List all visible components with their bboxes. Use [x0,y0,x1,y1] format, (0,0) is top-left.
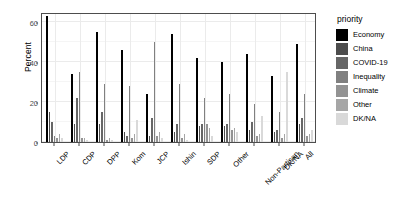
x-tick-label: LDP [54,149,71,166]
x-tick-label: Other [231,149,251,169]
legend-title: priority [337,14,415,24]
x-tick-mark [78,143,79,146]
bar [79,72,81,142]
x-tick-label: CDP [80,149,98,167]
x-tick-mark [103,143,104,146]
bar-group [171,14,188,142]
legend-swatch [336,99,348,111]
x-tick-mark [153,143,154,146]
legend-label: China [353,44,373,53]
legend-swatch [336,29,348,41]
bar-group [71,14,88,142]
legend-label: Inequality [353,72,385,81]
x-tick-label: SDP [205,149,222,166]
x-axis: LDPCDPDPPKomJCPIshinSDPOtherNon-Partisan… [41,143,316,203]
x-tick-label: JCP [154,149,170,165]
legend-swatch [336,113,348,125]
y-tick-mark [36,23,39,24]
x-tick-label: Kom [130,149,147,166]
bar [154,42,156,142]
x-tick-label: DPP [105,149,122,166]
x-tick-mark [53,143,54,146]
x-tick-mark [228,143,229,146]
legend-item[interactable]: Economy [336,28,415,41]
bar-group [296,14,313,142]
legend: priority EconomyChinaCOVID-19InequalityC… [336,14,415,126]
legend-item[interactable]: DK/NA [336,112,415,125]
bar [246,54,248,142]
bar-group [121,14,138,142]
legend-label: COVID-19 [353,58,388,67]
bar [261,116,263,142]
bar [61,138,63,142]
bar [136,120,138,142]
legend-swatch [336,43,348,55]
x-tick-mark [128,143,129,146]
legend-swatch [336,57,348,69]
bar [146,94,148,142]
bar-group [146,14,163,142]
legend-label: DK/NA [353,114,376,123]
y-tick-mark [36,63,39,64]
bar-group [196,14,213,142]
bar [236,132,238,142]
bar [161,138,163,142]
legend-item[interactable]: Climate [336,84,415,97]
legend-item[interactable]: Other [336,98,415,111]
bar [286,72,288,142]
x-tick-mark [253,143,254,146]
bar [111,140,113,142]
x-tick-mark [278,143,279,146]
bar [104,84,106,142]
bar-group [96,14,113,142]
legend-item[interactable]: COVID-19 [336,56,415,69]
bar [211,136,213,142]
x-tick-label: Ishin [180,149,198,167]
y-tick-mark [36,103,39,104]
bar [304,94,306,142]
bar [121,50,123,142]
x-tick-mark [203,143,204,146]
bar [311,130,313,142]
x-tick-mark [303,143,304,146]
bar [129,86,131,142]
y-tick-mark [36,143,39,144]
legend-label: Other [353,100,372,109]
bar-group [246,14,263,142]
legend-label: Economy [353,30,384,39]
legend-swatch [336,85,348,97]
bar-group [271,14,288,142]
bar [86,140,88,142]
legend-item[interactable]: China [336,42,415,55]
chart-root: Percent 0204060 LDPCDPDPPKomJCPIshinSDPO… [0,0,415,203]
x-tick-label: All [303,149,315,161]
legend-swatch [336,71,348,83]
legend-label: Climate [353,86,378,95]
plot-panel [41,13,316,143]
bar-group [46,14,63,142]
bar [171,34,173,142]
legend-item[interactable]: Inequality [336,70,415,83]
bar [186,140,188,142]
bar-group [221,14,238,142]
bar [179,84,181,142]
x-tick-mark [178,143,179,146]
y-axis-title: Percent [23,17,33,97]
y-axis: Percent 0204060 [10,0,38,203]
